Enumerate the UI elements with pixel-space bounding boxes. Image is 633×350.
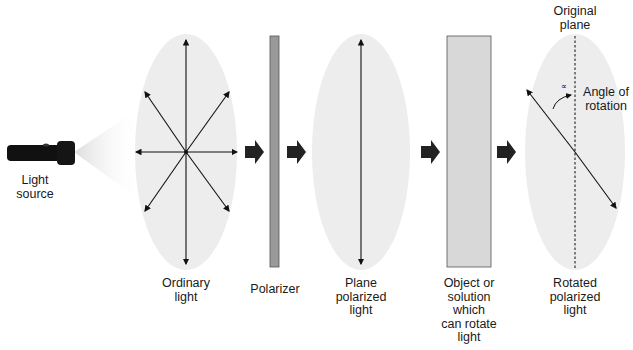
diagram-canvas bbox=[0, 0, 633, 350]
label-ordinary-light: Ordinary light bbox=[150, 277, 222, 304]
label-rotated-polarized: Rotated polarized light bbox=[540, 277, 610, 318]
light-beam bbox=[74, 108, 140, 200]
label-polarizer: Polarizer bbox=[245, 283, 305, 297]
label-plane-polarized: Plane polarized light bbox=[326, 277, 396, 318]
plane-polarized-figure bbox=[312, 34, 410, 270]
polarizer-plate bbox=[270, 36, 279, 267]
flow-arrow-1 bbox=[245, 140, 264, 164]
sample-cell bbox=[447, 36, 491, 267]
flow-arrow-4 bbox=[497, 140, 516, 164]
rotated-polarized-figure bbox=[525, 34, 625, 270]
label-light-source: Light source bbox=[10, 174, 60, 201]
label-original-plane: Original plane bbox=[542, 5, 608, 32]
flow-arrow-2 bbox=[287, 140, 306, 164]
flashlight-icon bbox=[7, 141, 75, 165]
alpha-symbol: ∝ bbox=[558, 80, 570, 94]
ordinary-light-figure bbox=[135, 34, 237, 270]
label-object-solution: Object or solution which can rotate ligh… bbox=[434, 277, 504, 345]
flow-arrow-3 bbox=[421, 140, 440, 164]
label-angle-of-rotation: Angle of rotation bbox=[576, 86, 633, 113]
